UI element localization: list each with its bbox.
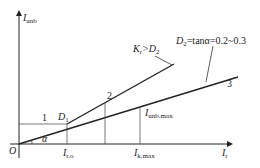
leader-d2 [206, 46, 213, 82]
i-kmax-label: Ik.max [134, 148, 155, 160]
restraint-characteristic-diagram: Iunb Ir O 1 2 3 D1 α Ir.o Ik.max Iunb.ma… [0, 0, 260, 168]
x-axis-label: Ir [222, 148, 228, 160]
d2-formula-label: D2=tanα=0.2~0.3 [176, 36, 246, 48]
leader-kr [155, 56, 172, 65]
diagram-lines [0, 0, 260, 168]
alpha-label: α [42, 134, 47, 144]
d1-label: D1 [58, 112, 69, 124]
point-3-label: 3 [227, 79, 232, 89]
kr-label: Kr>D2 [133, 44, 160, 56]
i-unbmax-label: Iunb.max [145, 108, 173, 120]
alpha-arc [32, 140, 33, 144]
y-axis-label: Iunb [23, 13, 37, 25]
point-1-label: 1 [42, 113, 47, 123]
line-3-d2 [19, 77, 238, 144]
i-r0-label: Ir.o [63, 148, 74, 160]
origin-label: O [9, 146, 16, 156]
point-2-label: 2 [107, 91, 112, 101]
